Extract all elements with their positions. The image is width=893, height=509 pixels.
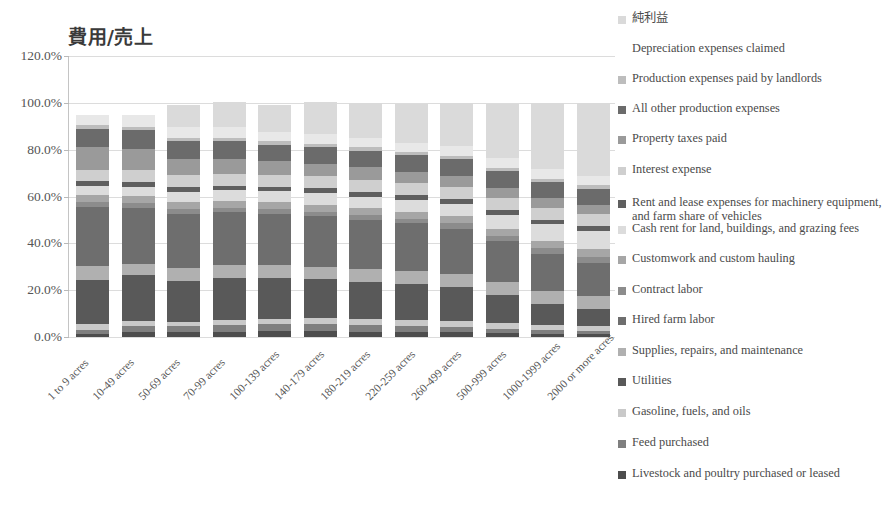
legend-item[interactable]: Property taxes paid (618, 132, 890, 146)
bar-segment[interactable] (167, 105, 200, 127)
bar-segment[interactable] (258, 132, 291, 141)
legend-item[interactable]: All other production expenses (618, 102, 890, 116)
bar-segment[interactable] (76, 129, 109, 148)
bar-segment[interactable] (486, 198, 519, 210)
bar-segment[interactable] (486, 295, 519, 323)
bar-segment[interactable] (304, 279, 337, 318)
legend-item[interactable]: Depreciation expenses claimed (618, 42, 890, 56)
bar-segment[interactable] (395, 104, 428, 142)
bar-segment[interactable] (258, 324, 291, 331)
bar-segment[interactable] (258, 214, 291, 266)
bar-segment[interactable] (577, 249, 610, 256)
bar-segment[interactable] (76, 195, 109, 202)
bar-segment[interactable] (304, 134, 337, 143)
bar-segment[interactable] (258, 191, 291, 202)
bar-segment[interactable] (258, 265, 291, 278)
bar-segment[interactable] (440, 146, 473, 155)
bar-segment[interactable] (76, 334, 109, 338)
bar-segment[interactable] (486, 241, 519, 282)
legend-item[interactable]: Rent and lease expenses for machinery eq… (618, 196, 890, 223)
bar-segment[interactable] (213, 332, 246, 337)
bar-segment[interactable] (213, 278, 246, 320)
bar-segment[interactable] (304, 324, 337, 331)
bar-segment[interactable] (349, 269, 382, 282)
legend-item[interactable]: Cash rent for land, buildings, and grazi… (618, 222, 890, 236)
bar-segment[interactable] (213, 141, 246, 159)
bar-segment[interactable] (167, 175, 200, 187)
bar-segment[interactable] (258, 145, 291, 161)
bar-segment[interactable] (349, 208, 382, 215)
legend-item[interactable]: Utilities (618, 374, 890, 388)
bar-segment[interactable] (258, 202, 291, 209)
bar-segment[interactable] (395, 200, 428, 212)
bar-segment[interactable] (395, 332, 428, 337)
bar-segment[interactable] (349, 332, 382, 337)
bar-segment[interactable] (349, 282, 382, 319)
bar-segment[interactable] (440, 332, 473, 337)
bar-column[interactable] (76, 115, 109, 337)
bar-segment[interactable] (213, 159, 246, 174)
bar-segment[interactable] (167, 159, 200, 175)
bar-segment[interactable] (395, 183, 428, 195)
bar-column[interactable] (577, 103, 610, 337)
bar-column[interactable] (122, 115, 155, 337)
legend-item[interactable]: Interest expense (618, 163, 890, 177)
bar-segment[interactable] (531, 291, 564, 304)
bar-segment[interactable] (349, 103, 382, 138)
bar-segment[interactable] (531, 169, 564, 178)
bar-segment[interactable] (258, 175, 291, 187)
legend-item[interactable]: Production expenses paid by landlords (618, 72, 890, 86)
bar-segment[interactable] (122, 170, 155, 182)
legend-item[interactable]: Customwork and custom hauling (618, 252, 890, 266)
bar-segment[interactable] (304, 147, 337, 163)
bar-segment[interactable] (167, 202, 200, 209)
bar-segment[interactable] (395, 155, 428, 171)
bar-segment[interactable] (76, 170, 109, 182)
bar-segment[interactable] (486, 158, 519, 167)
bar-segment[interactable] (167, 268, 200, 281)
bar-column[interactable] (531, 103, 564, 337)
bar-segment[interactable] (440, 176, 473, 188)
bar-segment[interactable] (122, 332, 155, 337)
bar-segment[interactable] (167, 127, 200, 138)
bar-segment[interactable] (304, 331, 337, 337)
bar-segment[interactable] (577, 205, 610, 214)
bar-segment[interactable] (486, 282, 519, 295)
legend-item[interactable]: Livestock and poultry purchased or lease… (618, 467, 890, 481)
bar-segment[interactable] (531, 241, 564, 248)
bar-segment[interactable] (304, 193, 337, 205)
bar-segment[interactable] (531, 103, 564, 169)
bar-segment[interactable] (531, 224, 564, 240)
bar-segment[interactable] (76, 280, 109, 324)
bar-column[interactable] (167, 105, 200, 337)
bar-segment[interactable] (395, 143, 428, 152)
bar-segment[interactable] (167, 192, 200, 203)
bar-segment[interactable] (531, 208, 564, 220)
bar-segment[interactable] (486, 229, 519, 236)
bar-segment[interactable] (122, 275, 155, 321)
bar-segment[interactable] (531, 334, 564, 337)
bar-column[interactable] (258, 105, 291, 337)
bar-segment[interactable] (440, 229, 473, 275)
bar-segment[interactable] (349, 138, 382, 147)
bar-segment[interactable] (577, 231, 610, 250)
bar-segment[interactable] (213, 174, 246, 186)
bar-segment[interactable] (577, 214, 610, 226)
bar-segment[interactable] (486, 104, 519, 158)
bar-segment[interactable] (531, 198, 564, 207)
bar-segment[interactable] (440, 204, 473, 217)
bar-segment[interactable] (577, 309, 610, 327)
bar-segment[interactable] (258, 161, 291, 175)
bar-column[interactable] (304, 102, 337, 337)
bar-segment[interactable] (304, 164, 337, 177)
bar-segment[interactable] (531, 304, 564, 325)
bar-segment[interactable] (167, 332, 200, 337)
bar-segment[interactable] (440, 187, 473, 199)
bar-column[interactable] (486, 104, 519, 337)
bar-segment[interactable] (213, 201, 246, 208)
bar-segment[interactable] (76, 266, 109, 280)
bar-column[interactable] (440, 103, 473, 337)
bar-segment[interactable] (304, 205, 337, 212)
bar-segment[interactable] (531, 182, 564, 198)
bar-segment[interactable] (577, 176, 610, 185)
